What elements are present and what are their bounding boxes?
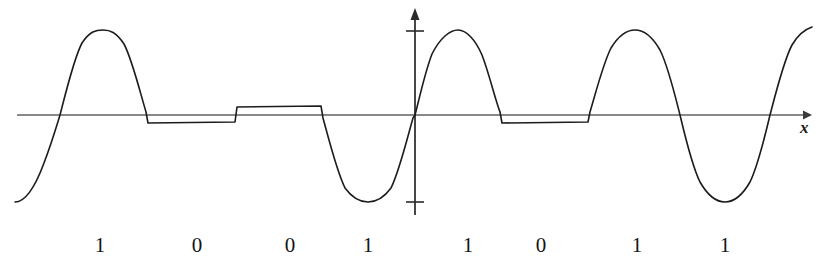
bit-label-row: 1 0 0 1 1 0 1 1 [0, 232, 822, 266]
x-axis-label: x [800, 118, 809, 138]
bit-label-1: 0 [184, 232, 210, 258]
waveform-figure: x 1 0 0 1 1 0 1 1 [0, 0, 822, 278]
y-axis-arrow-icon [411, 8, 420, 20]
bit-label-0: 1 [87, 232, 113, 258]
bit-label-7: 1 [712, 232, 738, 258]
bit-label-6: 1 [624, 232, 650, 258]
bit-label-2: 0 [277, 232, 303, 258]
bit-label-4: 1 [455, 232, 481, 258]
bit-label-3: 1 [355, 232, 381, 258]
bit-label-5: 0 [528, 232, 554, 258]
